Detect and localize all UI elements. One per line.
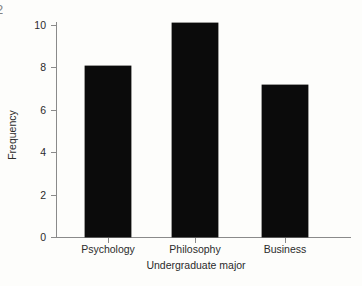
bar-chart-figure: 2 Frequency 0246810 PsychologyPhilosophy… <box>0 0 362 286</box>
x-axis-title: Undergraduate major <box>146 259 245 271</box>
y-tick-label: 2 <box>6 189 46 201</box>
y-tick-label: 8 <box>6 61 46 73</box>
y-tick-mark <box>51 110 57 111</box>
y-tick-mark <box>51 25 57 26</box>
x-tick-label: Business <box>264 243 307 255</box>
x-axis-line <box>56 237 351 238</box>
y-tick-mark <box>51 67 57 68</box>
y-tick-label: 6 <box>6 104 46 116</box>
bar <box>262 85 308 237</box>
y-tick-label: 10 <box>6 19 46 31</box>
y-tick-mark <box>51 195 57 196</box>
y-axis-line <box>56 22 57 238</box>
page-edge-glyph-fragment: 2 <box>0 2 2 17</box>
y-tick-mark <box>51 152 57 153</box>
bar <box>172 23 218 237</box>
y-tick-mark <box>51 237 57 238</box>
y-tick-label: 0 <box>6 231 46 243</box>
x-tick-label: Philosophy <box>169 243 220 255</box>
bar <box>85 66 131 237</box>
y-tick-label: 4 <box>6 146 46 158</box>
x-tick-label: Psychology <box>81 243 135 255</box>
